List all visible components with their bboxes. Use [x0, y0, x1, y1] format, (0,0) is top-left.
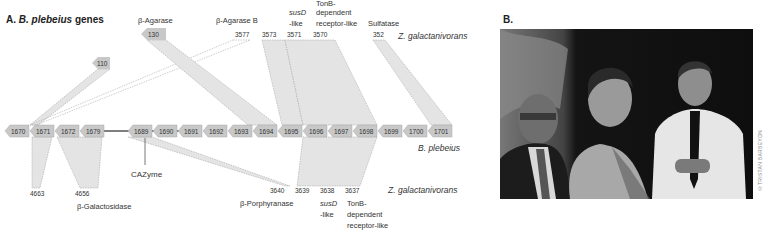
annotation-susd-bottom: susD	[320, 199, 338, 208]
gene-label-1691: 1691	[184, 128, 199, 135]
gene-label-1699: 1699	[384, 128, 399, 135]
gene-label-4656: 4656	[75, 190, 90, 197]
gene-label-1695: 1695	[284, 128, 299, 135]
gene-label-4663: 4663	[30, 190, 45, 197]
gene-label-3638: 3638	[320, 187, 335, 194]
gene-label-110: 110	[97, 60, 108, 67]
annotation-tonb-top-3: receptor-like	[316, 19, 357, 28]
gene-label-3639: 3639	[295, 187, 310, 194]
gene-label-3577: 3577	[235, 31, 250, 38]
gene-label-1700: 1700	[409, 128, 424, 135]
link-110-1671	[30, 69, 110, 125]
annotation-tonb-top-1: TonB-	[316, 0, 336, 8]
gene-label-1689: 1689	[134, 128, 149, 135]
gene-label-1690: 1690	[159, 128, 174, 135]
gene-label-3573: 3573	[262, 31, 277, 38]
link-130-1693	[147, 40, 277, 125]
annotation-susd-bottom-suffix: -like	[320, 210, 334, 219]
annotation-tonb-bottom-3: receptor-like	[347, 221, 388, 230]
reference-organism-label: B. plebeius	[418, 143, 461, 153]
annotation-porphyranase: β-Porphyranase	[240, 199, 294, 208]
annotation-susd-top: susD	[289, 8, 307, 17]
annotation-agarase-b: β-Agarase B	[216, 16, 258, 25]
annotation-agarase: β-Agarase	[138, 16, 173, 25]
gene-label-1672: 1672	[61, 128, 76, 135]
reference-genes: 1670167116721679168916901691169216931694…	[5, 125, 452, 137]
gene-label-1671: 1671	[36, 128, 51, 135]
gene-cluster-diagram: 1670167116721679168916901691169216931694…	[0, 0, 500, 242]
gene-label-1701: 1701	[434, 128, 449, 135]
gene-label-1693: 1693	[234, 128, 249, 135]
comparison-organism-top: Z. galactanivorans	[397, 31, 468, 41]
gene-label-1697: 1697	[334, 128, 349, 135]
team-photo	[500, 29, 753, 199]
gene-label-3637: 3637	[345, 187, 360, 194]
gene-label-1696: 1696	[309, 128, 324, 135]
comparison-organism-bottom: Z. galactanivorans	[387, 185, 458, 195]
gene-label-3571: 3571	[287, 31, 302, 38]
gene-label-3570: 3570	[313, 31, 328, 38]
annotation-tonb-top-2: dependent	[316, 8, 352, 17]
link-1672-4656	[57, 137, 102, 188]
gene-label-352: 352	[373, 31, 384, 38]
gene-label-130: 130	[148, 31, 159, 38]
gene-label-1692: 1692	[209, 128, 224, 135]
annotation-galactosidase: β-Galactosidase	[77, 202, 131, 211]
gene-label-1679: 1679	[86, 128, 101, 135]
link-1671-4663	[32, 137, 52, 188]
photo-illustration	[500, 29, 753, 199]
gene-label-1694: 1694	[259, 128, 274, 135]
gene-label-3640: 3640	[270, 187, 285, 194]
link-352-1701	[373, 40, 452, 125]
photo-credit: ©TRISTAN BARBEYON	[757, 130, 763, 191]
cazyme-label: CAZyme	[131, 170, 163, 179]
annotation-tonb-bottom-2: dependent	[347, 210, 383, 219]
annotation-tonb-bottom-1: TonB-	[347, 199, 367, 208]
annotation-sulfatase: Sulfatase	[368, 19, 399, 28]
annotation-susd-top-suffix: -like	[289, 19, 303, 28]
panel-b-title: B.	[503, 14, 513, 25]
gene-label-1670: 1670	[11, 128, 26, 135]
gene-label-1698: 1698	[359, 128, 374, 135]
link-1696-3637	[297, 137, 377, 186]
